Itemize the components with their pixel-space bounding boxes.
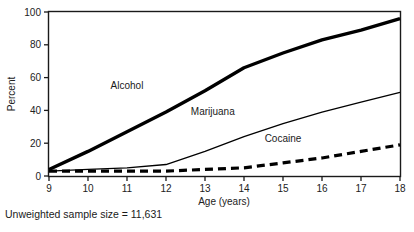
chart-figure: 020406080100 9101112131415161718 Alcohol… [0, 0, 414, 232]
y-axis: 020406080100 [24, 7, 49, 182]
y-axis-tick-label: 100 [24, 7, 41, 18]
x-axis-tick-label: 16 [316, 183, 328, 194]
series-label-alcohol: Alcohol [111, 80, 144, 91]
x-axis-tick-label: 15 [277, 183, 289, 194]
series-line-alcohol [49, 19, 400, 170]
x-axis: 9101112131415161718 [46, 176, 406, 194]
x-axis-tick-label: 14 [238, 183, 250, 194]
plot-area-border [49, 12, 401, 177]
x-axis-tick-label: 13 [199, 183, 211, 194]
series-line-marijuana [49, 92, 400, 171]
y-axis-tick-label: 20 [30, 138, 42, 149]
series-label-cocaine: Cocaine [265, 133, 302, 144]
x-axis-title: Age (years) [198, 196, 250, 207]
y-axis-title: Percent [6, 77, 17, 112]
series-line-cocaine [49, 145, 400, 171]
x-axis-tick-label: 10 [82, 183, 94, 194]
series-label-marijuana: Marijuana [191, 106, 235, 117]
x-axis-tick-label: 17 [355, 183, 367, 194]
x-axis-tick-label: 18 [394, 183, 406, 194]
trend-line-chart: 020406080100 9101112131415161718 Alcohol… [0, 0, 414, 232]
x-axis-tick-label: 12 [160, 183, 172, 194]
plot-frame [49, 12, 401, 177]
y-axis-tick-label: 60 [30, 72, 42, 83]
y-axis-tick-label: 80 [30, 39, 42, 50]
data-series-group [49, 19, 400, 172]
footnote-sample-size: Unweighted sample size = 11,631 [5, 208, 162, 220]
y-axis-tick-label: 0 [35, 171, 41, 182]
x-axis-tick-label: 11 [122, 183, 133, 194]
x-axis-tick-label: 9 [46, 183, 52, 194]
y-axis-tick-label: 40 [30, 105, 42, 116]
